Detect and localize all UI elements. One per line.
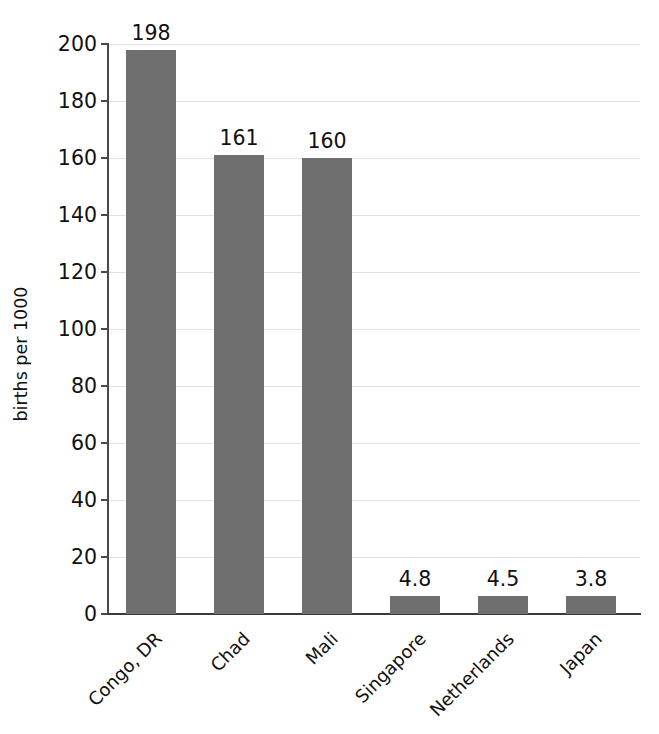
bar	[126, 50, 176, 614]
bar	[478, 596, 528, 614]
bar-chart: 200180160140120100806040200 births per 1…	[0, 0, 659, 734]
bar-value-label: 4.8	[372, 569, 458, 590]
gridline	[108, 443, 640, 444]
y-axis-tick	[101, 442, 108, 444]
y-axis-tick	[101, 499, 108, 501]
y-axis-tick-label: 0	[0, 604, 97, 625]
y-axis-tick	[101, 613, 108, 615]
y-axis-tick	[101, 43, 108, 45]
y-axis-tick-label: 160	[0, 148, 97, 169]
gridline	[108, 158, 640, 159]
y-axis-tick	[101, 385, 108, 387]
gridline	[108, 215, 640, 216]
y-axis-tick	[101, 100, 108, 102]
bar	[390, 596, 440, 614]
y-axis-tick	[101, 328, 108, 330]
x-axis-line	[108, 613, 641, 615]
gridline	[108, 386, 640, 387]
y-axis-title: births per 1000	[11, 189, 31, 519]
bar	[566, 596, 616, 614]
gridline	[108, 500, 640, 501]
y-axis-tick-label: 20	[0, 547, 97, 568]
plot-area	[108, 44, 640, 615]
gridline	[108, 44, 640, 45]
y-axis-tick	[101, 157, 108, 159]
x-axis-category-label: Congo, DR	[10, 628, 166, 734]
y-axis-tick	[101, 271, 108, 273]
bar-value-label: 160	[284, 131, 370, 152]
gridline	[108, 101, 640, 102]
y-axis-tick	[101, 556, 108, 558]
y-axis-tick	[101, 214, 108, 216]
gridline	[108, 557, 640, 558]
bar-value-label: 4.5	[460, 569, 546, 590]
bar	[214, 155, 264, 614]
y-axis-tick-label: 200	[0, 34, 97, 55]
y-axis-tick-label: 180	[0, 91, 97, 112]
bar-value-label: 198	[108, 23, 194, 44]
bar-value-label: 161	[196, 128, 282, 149]
gridline	[108, 272, 640, 273]
bar	[302, 158, 352, 614]
chart-title-remnant	[0, 0, 659, 9]
gridline	[108, 329, 640, 330]
bar-value-label: 3.8	[548, 569, 634, 590]
